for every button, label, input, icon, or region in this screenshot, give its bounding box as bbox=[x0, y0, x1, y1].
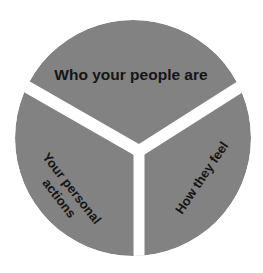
circle-background bbox=[15, 20, 251, 256]
segment-label-top: Who your people are bbox=[54, 66, 208, 83]
three-part-circle-diagram: Who your people are Your personal action… bbox=[0, 0, 263, 273]
